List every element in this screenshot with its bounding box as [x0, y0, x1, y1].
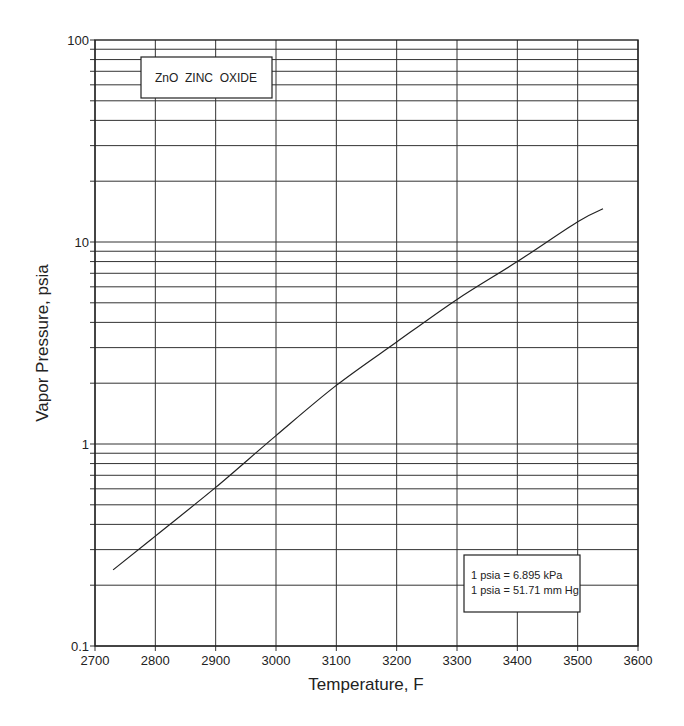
y-tick-label: 0.1 [71, 639, 89, 654]
vapor-pressure-chart: 2700280029003000310032003300340035003600… [0, 0, 684, 726]
x-tick-label: 2700 [81, 653, 110, 668]
x-axis-title: Temperature, F [308, 675, 423, 694]
chart-title: ZnO ZINC OXIDE [155, 71, 257, 85]
x-tick-label: 2900 [201, 653, 230, 668]
x-tick-label: 3200 [382, 653, 411, 668]
conversion-mmhg: 1 psia = 51.71 mm Hg [471, 584, 579, 596]
conversion-kpa: 1 psia = 6.895 kPa [471, 569, 563, 581]
y-tick-label: 100 [67, 33, 89, 48]
x-tick-label: 3100 [322, 653, 351, 668]
x-tick-label: 3600 [624, 653, 653, 668]
y-tick-label: 1 [82, 437, 89, 452]
x-tick-labels: 2700280029003000310032003300340035003600 [81, 653, 653, 668]
x-tick-label: 3000 [262, 653, 291, 668]
y-tick-label: 10 [75, 235, 89, 250]
y-axis-title: Vapor Pressure, psia [33, 264, 52, 422]
x-tick-label: 3300 [443, 653, 472, 668]
y-tick-labels: 0.1110100 [67, 33, 89, 654]
x-tick-label: 3400 [503, 653, 532, 668]
x-tick-label: 3500 [563, 653, 592, 668]
data-series-line [113, 209, 603, 570]
conversion-note-box: 1 psia = 6.895 kPa 1 psia = 51.71 mm Hg [464, 555, 580, 612]
x-tick-label: 2800 [141, 653, 170, 668]
title-box: ZnO ZINC OXIDE [141, 57, 272, 98]
